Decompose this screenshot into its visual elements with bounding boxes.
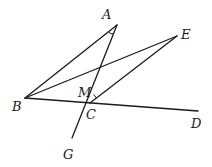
segment-EC xyxy=(90,36,177,103)
segment-BD xyxy=(25,98,198,111)
point-label-E: E xyxy=(181,28,191,41)
angle-mark-C xyxy=(93,95,96,99)
point-label-M: M xyxy=(78,86,91,99)
segment-BA xyxy=(25,25,117,98)
geometry-diagram: A B C D E G M xyxy=(0,0,212,167)
point-label-G: G xyxy=(63,148,73,161)
point-label-C: C xyxy=(86,108,96,121)
diagram-lines xyxy=(0,0,212,167)
angle-mark-A xyxy=(108,32,113,34)
point-label-D: D xyxy=(191,117,201,130)
point-label-A: A xyxy=(102,8,111,21)
segment-BE xyxy=(25,36,177,98)
point-label-B: B xyxy=(12,100,22,113)
